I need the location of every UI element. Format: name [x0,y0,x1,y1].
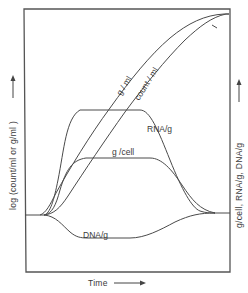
x-axis-arrow-icon [114,281,146,286]
curve-g-per-ml [40,14,229,215]
y-axis-right-arrow-icon [237,79,242,102]
label-rna-per-g: RNA/g [147,124,172,134]
curve-g-per-cell [44,158,215,215]
curve-dna-per-g [44,213,215,238]
label-count-per-ml: count / ml [132,65,160,102]
curve-count-per-ml [44,14,229,215]
annotation-tick [212,25,217,28]
plot-frame [24,9,230,272]
label-g-per-cell: g /cell [112,147,134,157]
curve-rna-per-g [44,110,215,215]
y-axis-left-label: log (count/ml or g/ml ) [8,121,18,210]
label-dna-per-g: DNA/g [83,230,108,240]
label-g-per-ml: g / ml [114,74,134,97]
growth-curve-diagram: g / ml count / ml RNA/g g /cell DNA/g Ti… [0,0,248,293]
y-axis-right-label: g/cell, RNA/g, DNA/g [234,143,244,228]
y-axis-left-arrow-icon [11,75,16,98]
x-axis-label: Time [88,278,108,288]
